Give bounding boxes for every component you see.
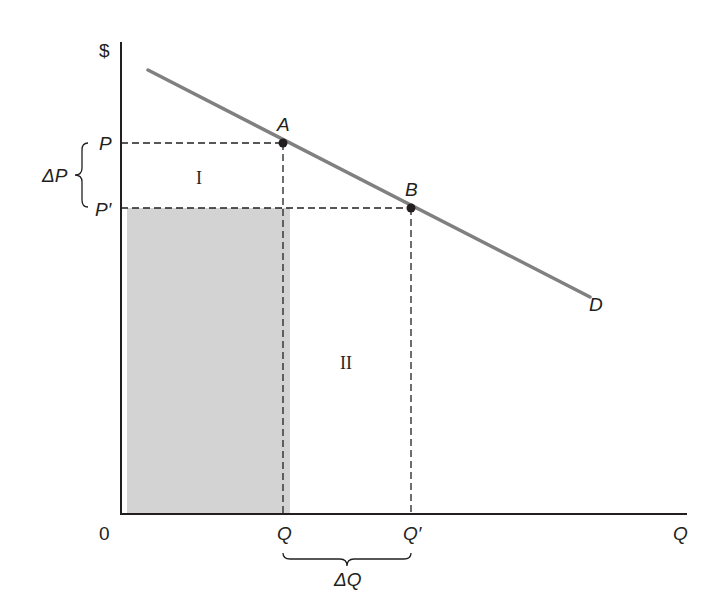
point-b [407, 204, 416, 213]
quantity-label-q: Q [277, 523, 292, 544]
region-2-label: II [340, 353, 352, 373]
delta-p-label: ΔP [41, 165, 68, 186]
point-a [279, 139, 288, 148]
origin-label: 0 [99, 523, 110, 544]
quantity-label-q-prime: Q′ [403, 523, 423, 544]
region-1-label: I [196, 168, 202, 188]
delta-q-brace [283, 553, 411, 566]
price-label-p-prime: P′ [95, 199, 113, 220]
point-a-label: A [276, 114, 290, 135]
price-label-p: P [99, 133, 112, 154]
demand-curve-label: D [589, 294, 603, 315]
x-axis-label: Q [673, 523, 688, 544]
y-axis-label: $ [99, 40, 110, 61]
point-b-label: B [405, 179, 418, 200]
delta-q-label: ΔQ [333, 569, 362, 590]
delta-p-brace [75, 143, 88, 207]
shaded-area [127, 208, 290, 514]
demand-diagram: $ 0 Q P P′ ΔP Q Q′ ΔQ A B D I II [0, 0, 725, 613]
